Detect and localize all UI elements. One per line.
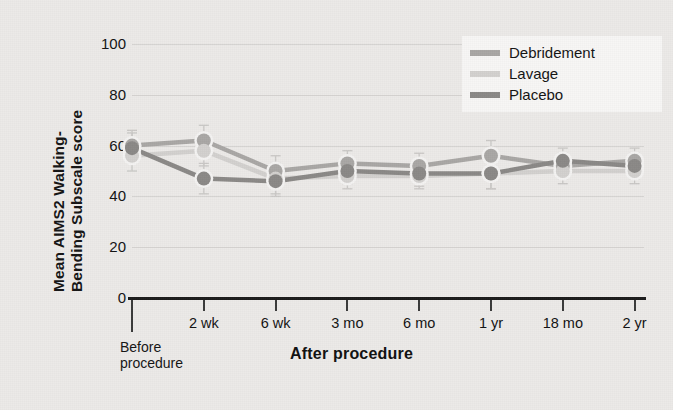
legend-item-placebo[interactable]: Placebo	[470, 84, 654, 105]
legend-item-debridement[interactable]: Debridement	[470, 42, 654, 63]
marker-placebo-7	[628, 159, 642, 173]
legend-label-placebo: Placebo	[509, 86, 563, 103]
chart-legend: Debridement Lavage Placebo	[462, 36, 662, 112]
marker-debridement-5	[484, 149, 498, 163]
marker-lavage-1	[197, 144, 211, 158]
marker-placebo-5	[484, 167, 498, 181]
marker-placebo-1	[197, 172, 211, 186]
legend-swatch-lavage	[470, 71, 500, 77]
legend-swatch-placebo	[470, 92, 500, 98]
legend-swatch-debridement	[470, 50, 500, 56]
legend-item-lavage[interactable]: Lavage	[470, 63, 654, 84]
chart-figure: Mean AIMS2 Walking- Bending Subscale sco…	[0, 0, 673, 410]
marker-placebo-0	[125, 141, 139, 155]
marker-placebo-2	[269, 174, 283, 188]
legend-label-debridement: Debridement	[509, 44, 595, 61]
marker-placebo-6	[556, 154, 570, 168]
marker-placebo-4	[412, 167, 426, 181]
legend-label-lavage: Lavage	[509, 65, 558, 82]
marker-placebo-3	[340, 164, 354, 178]
